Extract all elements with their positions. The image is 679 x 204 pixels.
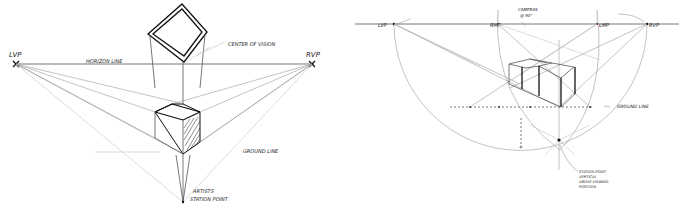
ground-line-right-label: GROUND LINE [617, 104, 649, 109]
picture-plane [148, 4, 207, 62]
lvp-right-label: LVP [378, 22, 387, 28]
station-point-label: STATION POINT [190, 196, 229, 202]
station-note-line-4: POSITION [579, 185, 596, 189]
two-point-perspective-diagram: LVP RVP [9, 4, 321, 203]
perspective-box [155, 104, 200, 154]
station-point-right-marker [557, 138, 560, 141]
cameras-label: CAMERAS [518, 7, 538, 12]
rvp-label: RVP [306, 51, 321, 59]
measuring-point-perspective-diagram: LVP RMP LMP RVP CAMERAS @ 90° G [355, 7, 679, 189]
perspective-box-row [509, 59, 575, 107]
center-of-vision-label: CENTER OF VISION [228, 41, 276, 47]
station-note-line-1: STATION POINT [579, 170, 607, 174]
station-point-marker [182, 201, 184, 203]
cameras-angle-label: @ 90° [520, 13, 532, 18]
station-note-line-3: ABOVE VIEWING [578, 180, 609, 184]
lvp-label: LVP [9, 51, 22, 59]
rvp-right-label: RVP [649, 22, 659, 28]
ground-line-label: GROUND LINE [243, 148, 279, 154]
station-note-line-2: VERTICAL [579, 175, 596, 179]
perspective-diagrams: LVP RVP [0, 0, 679, 204]
lmp-label: LMP [599, 22, 609, 28]
artists-label: ARTISTS [192, 188, 215, 194]
horizon-line-label: HORIZON LINE [86, 58, 123, 64]
